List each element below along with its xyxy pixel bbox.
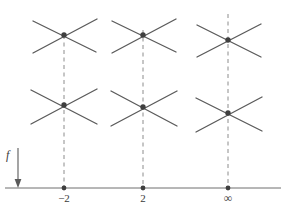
axis-tick-label-infinity: ∞: [224, 192, 233, 204]
axis-dot-infinity: [226, 186, 231, 191]
node-two-lower: [140, 104, 145, 109]
node-minus-two-lower: [61, 102, 66, 107]
diagram-canvas: f −2 2 ∞: [0, 0, 289, 220]
diagram-vector-layer: [0, 0, 289, 220]
arrow-head: [15, 179, 22, 188]
downward-arrow: [15, 148, 22, 188]
axis-dot-two: [141, 186, 146, 191]
node-infinity-lower: [225, 110, 230, 115]
axis-tick-label-two: 2: [140, 193, 146, 204]
axis-dot-minus-two: [62, 186, 67, 191]
f-label: f: [6, 149, 9, 161]
number-line-group: [5, 186, 281, 191]
node-infinity-upper: [225, 37, 230, 42]
axis-tick-label-minus-two: −2: [58, 193, 70, 204]
node-minus-two-upper: [61, 32, 66, 37]
node-two-upper: [140, 32, 145, 37]
